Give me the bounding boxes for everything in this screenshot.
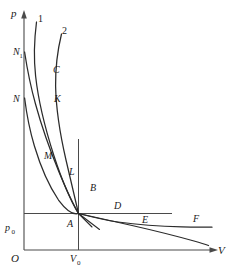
- point-labels-group: N 1 C N K M L B D A E F: [12, 46, 200, 229]
- p0-tick-label: p 0: [4, 222, 16, 236]
- point-label-N1-subscript: 1: [20, 52, 23, 59]
- point-label-D: D: [113, 200, 122, 211]
- p0-tick-subscript: 0: [12, 228, 16, 236]
- curve-number-labels-group: 1 2: [38, 13, 67, 36]
- p-axis-label: p: [10, 7, 17, 19]
- p0-tick-letter: p: [4, 222, 10, 233]
- figure-canvas: p V O p 0 V 0 1 2 N 1: [0, 0, 229, 269]
- point-label-N1: N 1: [12, 46, 23, 59]
- pv-diagram-svg: p V O p 0 V 0 1 2 N 1: [0, 0, 229, 269]
- point-label-L: L: [68, 166, 75, 177]
- axes-group: [21, 10, 218, 253]
- p-axis-arrow-icon: [21, 10, 27, 19]
- point-label-F: F: [192, 213, 200, 224]
- point-label-B: B: [90, 182, 96, 193]
- figure-caption: [0, 260, 229, 269]
- point-label-A: A: [66, 218, 74, 229]
- point-label-M: M: [43, 150, 53, 161]
- curve-2-path: [56, 34, 79, 214]
- point-label-K: K: [53, 93, 62, 104]
- v-axis-label: V: [218, 244, 226, 256]
- curve-label-2: 2: [62, 25, 67, 36]
- point-label-E: E: [141, 214, 148, 225]
- point-label-N: N: [12, 93, 21, 104]
- point-label-C: C: [53, 64, 60, 75]
- v-axis-arrow-icon: [210, 247, 219, 253]
- curves-group: [25, 22, 212, 246]
- curve-label-1: 1: [38, 13, 43, 24]
- axis-labels-group: p V O p 0 V 0: [4, 7, 226, 267]
